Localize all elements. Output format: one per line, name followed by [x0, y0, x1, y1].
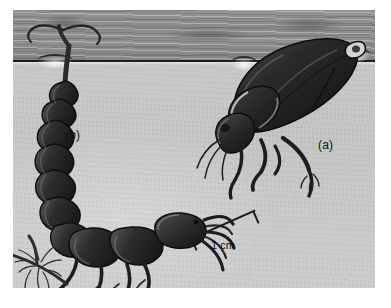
beetle-mid-legs	[252, 140, 265, 190]
aquatic-plant-sprig	[13, 228, 133, 288]
scale-bar-label: 1 cm	[211, 239, 235, 251]
larva-caudal-siphon	[28, 26, 100, 87]
scale-bar-cap-left	[190, 238, 197, 250]
page-root: (b) (a) 1 cm	[0, 0, 391, 308]
figure-label-b: (b)	[65, 128, 80, 142]
figure-plate: (b) (a) 1 cm	[13, 10, 375, 288]
figure-label-a: (a)	[318, 138, 333, 152]
scale-bar: 1 cm	[189, 217, 261, 259]
beetle-hind-legs	[275, 138, 319, 196]
